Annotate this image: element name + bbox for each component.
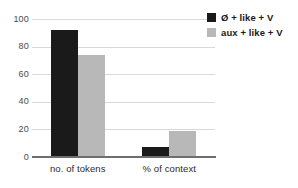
legend-item-label: Ø + like + V bbox=[221, 12, 273, 23]
bar bbox=[169, 131, 196, 157]
bar bbox=[51, 30, 78, 157]
y-axis-tick-labels: 020406080100 bbox=[0, 19, 29, 157]
legend-item[interactable]: aux + like + V bbox=[207, 26, 283, 39]
y-axis-tick-label: 20 bbox=[3, 125, 29, 134]
bar-group bbox=[142, 19, 196, 157]
y-axis-tick-label: 40 bbox=[3, 97, 29, 106]
y-axis-tick-label: 0 bbox=[3, 153, 29, 162]
legend-item-label: aux + like + V bbox=[221, 27, 283, 38]
x-axis-category-label: % of context bbox=[124, 163, 216, 174]
legend-item[interactable]: Ø + like + V bbox=[207, 11, 283, 24]
x-axis-category-label: no. of tokens bbox=[32, 163, 124, 174]
bar bbox=[78, 55, 105, 157]
legend-swatch-icon bbox=[207, 13, 216, 22]
plot-area bbox=[32, 19, 215, 157]
legend-swatch-icon bbox=[207, 28, 216, 37]
x-axis-line bbox=[32, 156, 216, 158]
chart-figure: 020406080100 Ø + like + Vaux + like + V … bbox=[0, 0, 298, 188]
y-axis-tick-label: 80 bbox=[3, 42, 29, 51]
y-axis-tick-label: 60 bbox=[3, 70, 29, 79]
legend: Ø + like + Vaux + like + V bbox=[207, 11, 283, 41]
bar-group bbox=[51, 19, 105, 157]
y-axis-tick-label: 100 bbox=[3, 15, 29, 24]
